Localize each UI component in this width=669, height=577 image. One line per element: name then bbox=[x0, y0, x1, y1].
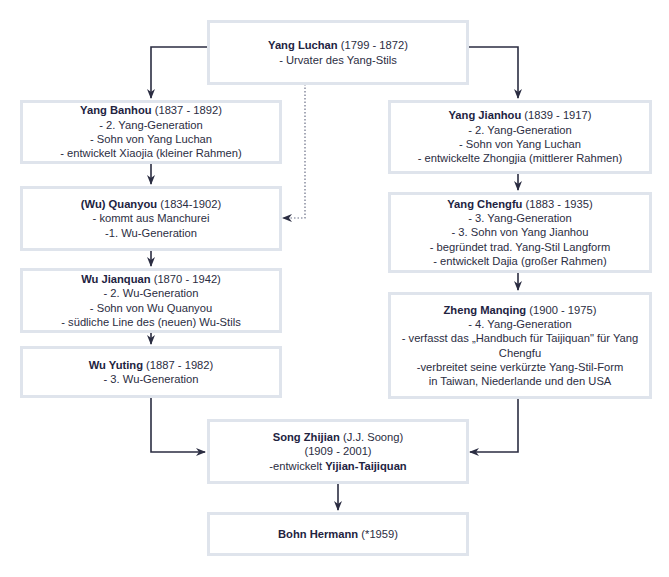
node-yang-chengfu: Yang Chengfu (1883 - 1935) - 3. Yang-Gen… bbox=[388, 192, 652, 273]
node-name: Zheng Manqing bbox=[444, 304, 527, 316]
node-detail: - 2. Yang-Generation bbox=[468, 123, 571, 137]
node-dates: (1799 - 1872) bbox=[341, 39, 408, 51]
node-dates: (1839 - 1917) bbox=[524, 109, 591, 121]
edge-zheng-song bbox=[470, 399, 518, 452]
node-dates: (1900 - 1975) bbox=[529, 304, 596, 316]
node-detail: -1. Wu-Generation bbox=[105, 226, 197, 240]
node-detail: - Sohn von Yang Luchan bbox=[90, 132, 212, 146]
node-detail: - verfasst das „Handbuch für Taijiquan" … bbox=[402, 331, 639, 345]
node-name: Yang Jianhou bbox=[448, 109, 521, 121]
edge-luchan-jianhou bbox=[468, 47, 518, 98]
node-song-zhijian: Song Zhijian (J.J. Soong) (1909 - 2001) … bbox=[207, 419, 469, 484]
node-style-name: Yijian-Taijiquan bbox=[325, 460, 406, 472]
node-detail: - Sohn von Yang Luchan bbox=[459, 137, 581, 151]
node-dates: (1870 - 1942) bbox=[154, 273, 221, 285]
node-name: Yang Chengfu bbox=[447, 198, 522, 210]
node-yang-jianhou: Yang Jianhou (1839 - 1917) - 2. Yang-Gen… bbox=[388, 100, 652, 174]
edge-yuting-song bbox=[151, 398, 205, 452]
node-detail: Chengfu bbox=[499, 346, 541, 360]
node-dates: (1909 - 2001) bbox=[304, 444, 371, 458]
node-name: Wu Yuting bbox=[89, 359, 143, 371]
node-detail: -entwickelt bbox=[269, 460, 322, 472]
node-alias: (J.J. Soong) bbox=[343, 431, 403, 443]
node-name: Yang Luchan bbox=[268, 39, 338, 51]
node-detail: - 2. Wu-Generation bbox=[104, 286, 199, 300]
node-dates: (*1959) bbox=[361, 528, 398, 540]
node-detail: - entwickelt Dajia (großer Rahmen) bbox=[433, 254, 606, 268]
node-dates: (1837 - 1892) bbox=[155, 104, 222, 116]
node-detail: in Taiwan, Niederlande und den USA bbox=[429, 374, 612, 388]
node-wu-yuting: Wu Yuting (1887 - 1982) - 3. Wu-Generati… bbox=[20, 346, 282, 398]
node-detail: - entwickelt Xiaojia (kleiner Rahmen) bbox=[60, 146, 242, 160]
node-bohn-hermann: Bohn Hermann (*1959) bbox=[207, 512, 469, 556]
node-dates: (1834-1902) bbox=[160, 198, 221, 210]
node-detail: - 4. Yang-Generation bbox=[468, 317, 571, 331]
node-name: Wu Jianquan bbox=[81, 273, 150, 285]
node-detail: - begründet trad. Yang-Stil Langform bbox=[430, 240, 611, 254]
node-name: Song Zhijian bbox=[273, 431, 340, 443]
node-detail: - 3. Wu-Generation bbox=[104, 372, 199, 386]
edge-luchan-quanyou-dotted bbox=[283, 84, 305, 218]
node-detail: - südliche Line des (neuen) Wu-Stils bbox=[61, 315, 241, 329]
node-zheng-manqing: Zheng Manqing (1900 - 1975) - 4. Yang-Ge… bbox=[388, 292, 652, 399]
node-name: Yang Banhou bbox=[80, 104, 151, 116]
node-detail: - 2. Yang-Generation bbox=[99, 118, 202, 132]
node-detail: - 3. Yang-Generation bbox=[468, 211, 571, 225]
node-yang-luchan: Yang Luchan (1799 - 1872) - Urvater des … bbox=[207, 20, 469, 85]
edge-luchan-banhou bbox=[151, 47, 207, 98]
node-name: Bohn Hermann bbox=[278, 528, 358, 540]
node-yang-banhou: Yang Banhou (1837 - 1892) - 2. Yang-Gene… bbox=[20, 100, 282, 164]
node-wu-quanyou: (Wu) Quanyou (1834-1902) - kommt aus Man… bbox=[20, 186, 282, 251]
node-name: (Wu) Quanyou bbox=[81, 198, 157, 210]
node-detail: -verbreitet seine verkürzte Yang-Stil-Fo… bbox=[417, 360, 624, 374]
node-detail: - Urvater des Yang-Stils bbox=[279, 53, 397, 67]
node-dates: (1883 - 1935) bbox=[526, 198, 593, 210]
node-detail: - Sohn von Wu Quanyou bbox=[90, 301, 212, 315]
node-detail: - 3. Sohn von Yang Jianhou bbox=[451, 225, 588, 239]
node-detail: - kommt aus Manchurei bbox=[93, 211, 210, 225]
node-wu-jianquan: Wu Jianquan (1870 - 1942) - 2. Wu-Genera… bbox=[20, 268, 282, 333]
node-dates: (1887 - 1982) bbox=[146, 359, 213, 371]
node-detail: - entwickelte Zhongjia (mittlerer Rahmen… bbox=[418, 151, 623, 165]
